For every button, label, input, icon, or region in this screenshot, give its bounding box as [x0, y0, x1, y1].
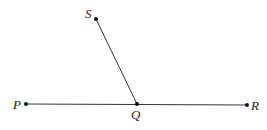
label-R: R — [250, 98, 259, 113]
label-S: S — [85, 6, 92, 21]
label-P: P — [12, 97, 21, 112]
label-Q: Q — [131, 107, 141, 122]
geometry-diagram: S P Q R — [0, 0, 267, 130]
point-P — [24, 102, 28, 106]
point-S — [94, 17, 98, 21]
segment-QS — [96, 19, 137, 104]
point-Q — [135, 102, 139, 106]
diagram-svg: S P Q R — [0, 0, 267, 130]
point-R — [245, 103, 249, 107]
